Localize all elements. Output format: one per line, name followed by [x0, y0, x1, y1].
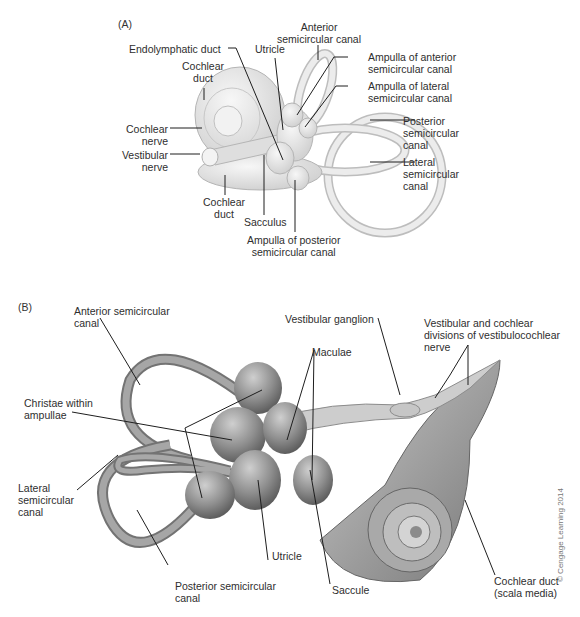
label-a-posterior-semicircular-canal: Posterior semicircular canal [403, 115, 459, 151]
label-a-utricle: Utricle [255, 43, 285, 55]
label-a-cochlear-duct-bottom: Cochlear duct [203, 196, 245, 220]
label-b-maculae: Maculae [312, 346, 352, 358]
copyright-notice: © Cengage Learning 2014 [556, 488, 565, 582]
label-a-ampulla-anterior: Ampulla of anterior semicircular canal [368, 51, 456, 75]
panel-b-tag: (B) [18, 301, 32, 313]
label-b-posterior-semicircular-canal: Posterior semicircular canal [175, 580, 276, 604]
label-b-vestibular-ganglion: Vestibular ganglion [285, 313, 374, 325]
label-a-vestibular-nerve: Vestibular nerve [108, 149, 168, 173]
label-b-christae-within-ampullae: Christae within ampullae [24, 397, 93, 421]
panel-a-tag: (A) [118, 18, 132, 30]
label-a-anterior-semicircular-canal: Anterior semicircular canal [277, 21, 361, 45]
label-a-cochlear-duct-top: Cochlear duct [182, 60, 224, 84]
label-a-ampulla-lateral: Ampulla of lateral semicircular canal [368, 80, 452, 104]
label-b-utricle: Utricle [272, 550, 302, 562]
label-b-vestibulocochlear-divisions: Vestibular and cochlear divisions of ves… [424, 317, 560, 353]
label-a-ampulla-posterior: Ampulla of posterior semicircular canal [247, 234, 340, 258]
label-a-lateral-semicircular-canal: Lateral semicircular canal [403, 156, 459, 192]
label-a-endolymphatic-duct: Endolymphatic duct [129, 43, 221, 55]
label-b-anterior-semicircular-canal: Anterior semicircular canal [74, 305, 170, 329]
label-b-lateral-semicircular-canal: Lateral semicircular canal [18, 482, 74, 518]
label-b-cochlear-duct: Cochlear duct (scala media) [494, 575, 559, 599]
label-a-sacculus: Sacculus [244, 216, 287, 228]
label-b-saccule: Saccule [332, 584, 369, 596]
label-a-cochlear-nerve: Cochlear nerve [118, 123, 168, 147]
